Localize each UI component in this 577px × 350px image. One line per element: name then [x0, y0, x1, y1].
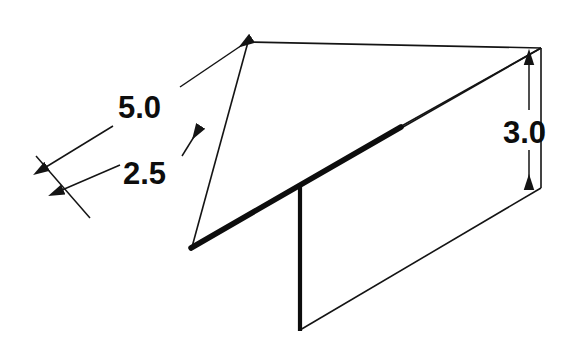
isometric-t-section-drawing: 5.0 2.5 3.0 — [0, 0, 577, 350]
dimension-label-2-5: 2.5 — [123, 156, 166, 191]
dimension-label-5-0: 5.0 — [118, 90, 161, 125]
dimension-label-3-0: 3.0 — [503, 115, 546, 150]
drawing-background — [0, 0, 577, 350]
technical-drawing-canvas: 5.0 2.5 3.0 — [0, 0, 577, 350]
